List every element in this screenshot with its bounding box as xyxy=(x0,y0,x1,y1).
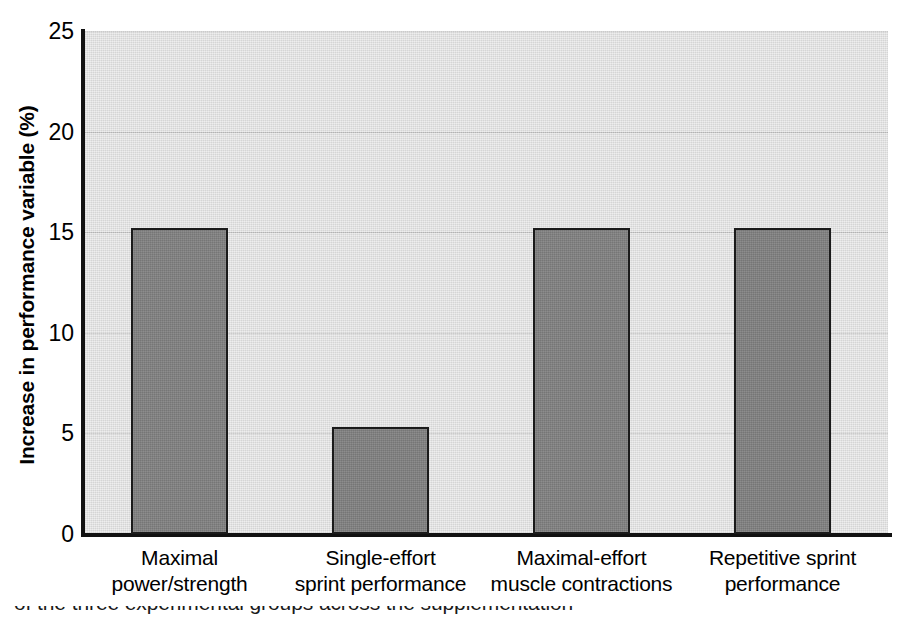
x-axis-tick-label-line: Maximal xyxy=(67,545,292,571)
y-axis-tick-label: 20 xyxy=(22,120,74,143)
bar xyxy=(332,427,429,534)
clipped-caption-text: of the three experimental groups across … xyxy=(14,606,904,616)
y-axis-tick-label: 5 xyxy=(22,422,74,445)
y-axis-tick-label: 15 xyxy=(22,221,74,244)
y-axis-tick-labels: 0510152025 xyxy=(22,0,74,618)
x-axis-tick-label: Single-effortsprint performance xyxy=(268,545,493,597)
y-axis-tick-label: 10 xyxy=(22,321,74,344)
bar xyxy=(533,228,630,534)
bars-layer xyxy=(84,31,888,534)
x-axis-tick-label-line: muscle contractions xyxy=(469,571,694,597)
clipped-caption: of the three experimental groups across … xyxy=(0,606,911,618)
x-axis-tick-label: Maximal-effortmuscle contractions xyxy=(469,545,694,597)
x-axis-tick-label-line: power/strength xyxy=(67,571,292,597)
x-axis-tick-label-line: Single-effort xyxy=(268,545,493,571)
x-axis-tick-labels: Maximalpower/strengthSingle-effortsprint… xyxy=(84,545,888,607)
bar xyxy=(734,228,831,534)
bar xyxy=(131,228,228,534)
x-axis-tick-label: Maximalpower/strength xyxy=(67,545,292,597)
x-axis-tick-label-line: Repetitive sprint xyxy=(670,545,895,571)
bar-chart-figure: Increase in performance variable (%) 051… xyxy=(0,0,911,618)
y-axis-tick-label: 25 xyxy=(22,20,74,43)
x-axis-tick-label-line: Maximal-effort xyxy=(469,545,694,571)
x-axis-tick-label-line: performance xyxy=(670,571,895,597)
x-axis-tick-label: Repetitive sprintperformance xyxy=(670,545,895,597)
x-axis-tick-label-line: sprint performance xyxy=(268,571,493,597)
y-axis-tick-label: 0 xyxy=(22,523,74,546)
